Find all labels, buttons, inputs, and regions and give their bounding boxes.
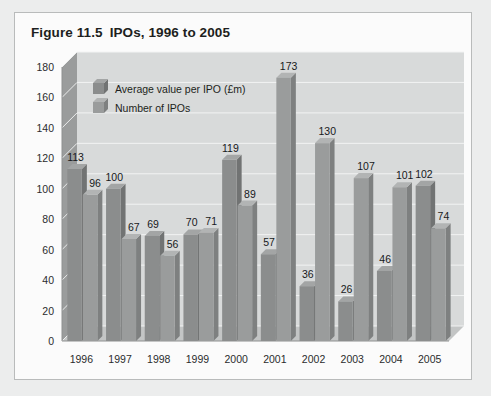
bar-front bbox=[67, 169, 82, 341]
bar-group bbox=[276, 73, 296, 341]
figure-panel: Figure 11.5IPOs, 1996 to 2005 0204060801… bbox=[14, 12, 472, 380]
bar-value-label: 71 bbox=[205, 215, 217, 227]
y-axis-tick-label: 40 bbox=[42, 274, 54, 286]
bar-value-label: 96 bbox=[89, 177, 101, 189]
bar-front bbox=[354, 178, 369, 341]
bar-front bbox=[222, 160, 237, 341]
y-axis-tick-label: 160 bbox=[36, 91, 54, 103]
y-axis-tick-label: 20 bbox=[42, 305, 54, 317]
bar-value-label: 113 bbox=[67, 151, 84, 163]
y-axis-tick-label: 80 bbox=[42, 213, 54, 225]
bar-front bbox=[276, 78, 291, 341]
bar-value-label: 70 bbox=[186, 216, 198, 228]
bar-front bbox=[106, 189, 121, 341]
legend-label: Average value per IPO (£m) bbox=[115, 83, 246, 95]
x-axis-category-label: 2001 bbox=[263, 353, 287, 365]
bar-group bbox=[392, 182, 412, 341]
x-axis-category-label: 2000 bbox=[224, 353, 248, 365]
bar-group bbox=[122, 234, 142, 341]
bar-front bbox=[431, 228, 446, 341]
bar-value-label: 46 bbox=[379, 253, 391, 265]
bar-front bbox=[315, 143, 330, 341]
bar-side bbox=[446, 223, 451, 341]
bar-group bbox=[315, 138, 335, 341]
bar-value-label: 100 bbox=[106, 171, 124, 183]
bar-front bbox=[199, 233, 214, 341]
x-axis-category-label: 2002 bbox=[302, 353, 326, 365]
bar-front bbox=[338, 301, 353, 341]
bar-value-label: 36 bbox=[302, 268, 314, 280]
y-axis-tick-label: 180 bbox=[36, 61, 54, 73]
x-axis-category-label: 1998 bbox=[147, 353, 171, 365]
bar-value-label: 119 bbox=[222, 142, 239, 154]
y-axis-tick-label: 0 bbox=[48, 335, 54, 347]
bar-front bbox=[83, 195, 98, 341]
bar-front bbox=[160, 256, 175, 341]
x-axis-category-label: 2005 bbox=[418, 353, 442, 365]
bar-group bbox=[238, 201, 258, 341]
bar-group bbox=[431, 223, 451, 341]
bar-value-label: 56 bbox=[167, 238, 179, 250]
bar-group bbox=[160, 251, 180, 341]
bar-side bbox=[330, 138, 335, 341]
figure-number: Figure 11.5 bbox=[31, 25, 103, 40]
y-axis-tick-label: 120 bbox=[36, 152, 54, 164]
legend-label: Number of IPOs bbox=[115, 102, 190, 114]
bar-front bbox=[261, 254, 276, 341]
bar-value-label: 173 bbox=[280, 60, 298, 72]
bar-value-label: 130 bbox=[319, 125, 337, 137]
x-axis-category-label: 1997 bbox=[108, 353, 132, 365]
y-axis-tick-label: 100 bbox=[36, 183, 54, 195]
y-axis-tick-label: 60 bbox=[42, 244, 54, 256]
x-axis-category-label: 1999 bbox=[186, 353, 210, 365]
figure-title: Figure 11.5IPOs, 1996 to 2005 bbox=[31, 25, 230, 40]
bar-value-label: 101 bbox=[396, 169, 414, 181]
y-axis-tick-label: 140 bbox=[36, 122, 54, 134]
bar-side bbox=[291, 73, 296, 341]
bar-value-label: 67 bbox=[128, 221, 140, 233]
bar-side bbox=[252, 201, 257, 341]
bar-value-label: 107 bbox=[357, 160, 375, 172]
bar-front bbox=[122, 239, 137, 341]
bar-group bbox=[83, 190, 103, 341]
bar-group bbox=[354, 173, 374, 341]
bar-value-label: 89 bbox=[244, 188, 256, 200]
bar-value-label: 26 bbox=[341, 283, 353, 295]
bar-side bbox=[368, 173, 373, 341]
bar-side bbox=[97, 190, 102, 341]
bar-front bbox=[377, 271, 392, 341]
legend-swatch bbox=[93, 102, 104, 113]
bar-side bbox=[407, 182, 412, 341]
legend-swatch bbox=[93, 83, 104, 94]
bar-value-label: 102 bbox=[415, 168, 433, 180]
bar-front bbox=[392, 187, 407, 341]
x-axis-category-label: 2003 bbox=[341, 353, 365, 365]
bar-front bbox=[145, 236, 160, 341]
x-axis-category-label: 2004 bbox=[379, 353, 403, 365]
bar-side bbox=[136, 234, 141, 341]
figure-caption: IPOs, 1996 to 2005 bbox=[110, 25, 230, 40]
bar-value-label: 57 bbox=[263, 236, 275, 248]
bar-front bbox=[238, 206, 253, 341]
bar-front bbox=[183, 234, 198, 341]
bar-front bbox=[300, 286, 315, 341]
bar-front bbox=[416, 186, 431, 341]
bar-side bbox=[213, 228, 218, 341]
bar-group bbox=[199, 228, 219, 341]
x-axis-category-label: 1996 bbox=[70, 353, 94, 365]
bar-side bbox=[175, 251, 180, 341]
bar-value-label: 69 bbox=[147, 218, 159, 230]
bar-value-label: 74 bbox=[438, 210, 450, 222]
bar-chart: 0204060801001201401601801139619961006719… bbox=[15, 47, 473, 379]
chart-canvas: 0204060801001201401601801139619961006719… bbox=[15, 47, 473, 379]
